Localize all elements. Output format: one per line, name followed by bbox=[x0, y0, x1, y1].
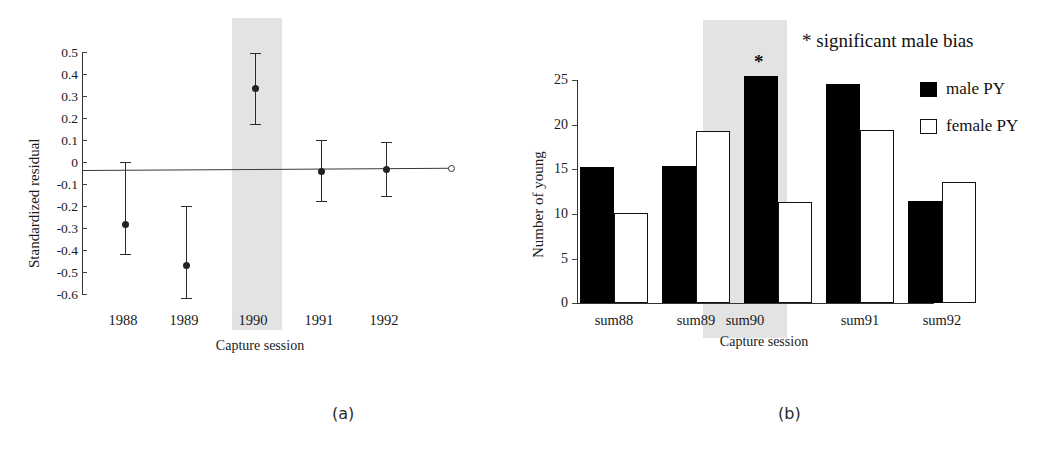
data-point-1989 bbox=[183, 262, 190, 269]
panel-b-xtick-label-sum92: sum92 bbox=[904, 312, 980, 329]
panel-b-xtick-label-sum90: sum90 bbox=[707, 312, 783, 329]
error-cap-lower-1989 bbox=[181, 298, 192, 299]
panel-a-ytick bbox=[82, 294, 87, 295]
panel-b-ytick bbox=[572, 169, 577, 170]
panel-a-xtick-label-1988: 1988 bbox=[92, 312, 154, 329]
panel-b-caption: (b) bbox=[778, 404, 801, 423]
bar-female-sum90 bbox=[778, 202, 812, 303]
error-cap-lower-1990 bbox=[250, 124, 261, 125]
panel-a-ytick bbox=[82, 228, 87, 229]
panel-a-ytick-label: 0.2 bbox=[34, 112, 78, 126]
error-cap-upper-1992 bbox=[381, 142, 392, 143]
legend-label-male-py: male PY bbox=[946, 79, 1005, 99]
legend-item-female-py: female PY bbox=[920, 116, 1018, 136]
data-point-1991 bbox=[318, 168, 325, 175]
panel-a-ytick-label: 0.5 bbox=[34, 46, 78, 60]
panel-a-ytick-label: -0.6 bbox=[34, 288, 78, 302]
panel-a-ytick-label: 0.3 bbox=[34, 90, 78, 104]
panel-b-ytick-label: 20 bbox=[532, 118, 568, 132]
legend-label-female-py: female PY bbox=[946, 116, 1018, 136]
panel-b-ytick bbox=[572, 80, 577, 81]
error-cap-lower-1992 bbox=[381, 196, 392, 197]
panel-a-caption: (a) bbox=[332, 404, 354, 423]
panel-b-xtick-label-sum88: sum88 bbox=[576, 312, 652, 329]
panel-a-y-axis-title: Standardized residual bbox=[26, 138, 43, 268]
bar-male-sum91 bbox=[826, 84, 860, 303]
panel-a-ytick bbox=[82, 52, 87, 53]
figure-root: 0.5 0.4 0.3 0.2 0.1 0 -0.1 -0.2 -0.3 -0.… bbox=[0, 0, 1060, 460]
panel-a-ytick bbox=[82, 162, 87, 163]
data-point-1988 bbox=[122, 221, 129, 228]
panel-a-ytick bbox=[82, 140, 87, 141]
bar-male-sum89 bbox=[662, 166, 696, 303]
highlight-band-1990 bbox=[232, 18, 282, 330]
legend-item-male-py: male PY bbox=[920, 79, 1005, 99]
panel-b-y-axis bbox=[577, 80, 578, 304]
panel-b-bar-chart: 25 20 15 10 5 0 * sum88 sum89 sum90 sum9… bbox=[520, 0, 1060, 380]
panel-a-x-axis-title: Capture session bbox=[200, 338, 320, 354]
panel-b-ytick-label: 25 bbox=[532, 73, 568, 87]
bar-male-sum92 bbox=[908, 201, 942, 303]
panel-b-ytick bbox=[572, 303, 577, 304]
panel-a-ytick bbox=[82, 74, 87, 75]
error-cap-upper-1990 bbox=[250, 53, 261, 54]
error-cap-upper-1991 bbox=[316, 140, 327, 141]
panel-b-xtick-label-sum91: sum91 bbox=[822, 312, 898, 329]
significance-star-sum90: * bbox=[754, 52, 764, 71]
panel-b-x-axis-title: Capture session bbox=[704, 334, 824, 350]
bar-male-sum90 bbox=[744, 76, 778, 303]
bar-female-sum88 bbox=[614, 213, 648, 303]
panel-b-ytick bbox=[572, 259, 577, 260]
panel-b-ytick bbox=[572, 125, 577, 126]
significance-annotation: * significant male bias bbox=[802, 30, 973, 52]
panel-a-ytick bbox=[82, 272, 87, 273]
panel-a-xtick-label-1992: 1992 bbox=[353, 312, 415, 329]
panel-a-ytick bbox=[82, 206, 87, 207]
panel-a-xtick-label-1990: 1990 bbox=[222, 312, 284, 329]
line-end-open-circle-marker bbox=[448, 165, 455, 172]
data-point-1992 bbox=[383, 166, 390, 173]
error-bar-1988 bbox=[125, 162, 126, 255]
panel-a-ytick-label: 0.4 bbox=[34, 68, 78, 82]
panel-a-ytick bbox=[82, 96, 87, 97]
panel-a-ytick bbox=[82, 118, 87, 119]
error-cap-lower-1991 bbox=[316, 201, 327, 202]
panel-b-y-axis-title: Number of young bbox=[530, 151, 547, 258]
bar-female-sum91 bbox=[860, 130, 894, 303]
data-point-1990 bbox=[252, 85, 259, 92]
bar-female-sum92 bbox=[942, 182, 976, 303]
panel-a-error-plot: 0.5 0.4 0.3 0.2 0.1 0 -0.1 -0.2 -0.3 -0.… bbox=[0, 0, 520, 380]
panel-a-ytick-label: -0.5 bbox=[34, 266, 78, 280]
panel-b-ytick-label: 0 bbox=[532, 296, 568, 310]
error-cap-upper-1989 bbox=[181, 206, 192, 207]
panel-b-x-axis bbox=[577, 303, 934, 304]
bar-male-sum88 bbox=[580, 167, 614, 303]
error-cap-upper-1988 bbox=[120, 162, 131, 163]
panel-a-ytick bbox=[82, 250, 87, 251]
error-cap-lower-1988 bbox=[120, 254, 131, 255]
panel-a-y-axis bbox=[82, 52, 83, 295]
error-bar-1989 bbox=[186, 206, 187, 299]
panel-a-xtick-label-1989: 1989 bbox=[153, 312, 215, 329]
panel-a-ytick bbox=[82, 184, 87, 185]
legend-swatch-female-py-icon bbox=[920, 119, 937, 134]
panel-b-ytick bbox=[572, 214, 577, 215]
legend-swatch-male-py-icon bbox=[920, 82, 937, 97]
bar-female-sum89 bbox=[696, 131, 730, 303]
panel-a-xtick-label-1991: 1991 bbox=[288, 312, 350, 329]
